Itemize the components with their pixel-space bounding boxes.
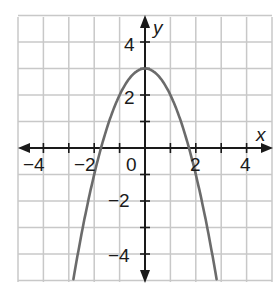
x-axis-left-arrow-icon — [18, 143, 30, 153]
x-axis-label: x — [255, 124, 267, 145]
y-tick-label-neg2: −2 — [108, 190, 130, 211]
x-tick-label-0: 0 — [126, 154, 137, 175]
x-tick-label-neg2: −2 — [74, 154, 96, 175]
y-tick-label-2: 2 — [124, 87, 135, 108]
y-axis-up-arrow-icon — [140, 15, 150, 28]
x-tick-label-2: 2 — [190, 154, 201, 175]
parabola-graph: −4 −2 0 2 4 4 2 −2 −4 y x — [0, 0, 277, 285]
y-tick-label-neg4: −4 — [108, 245, 130, 266]
y-axis-label: y — [151, 17, 164, 38]
x-tick-label-neg4: −4 — [23, 154, 45, 175]
axes — [18, 15, 273, 283]
x-tick-label-4: 4 — [240, 154, 251, 175]
y-tick-label-4: 4 — [124, 34, 135, 55]
